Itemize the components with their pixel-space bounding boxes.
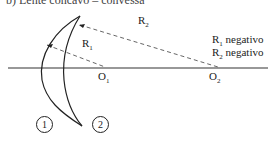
lens-surface-2	[64, 16, 82, 126]
note-r2-negative: R2 negativo	[212, 46, 263, 61]
label-o2: O2	[209, 70, 220, 85]
label-r1: R1	[82, 37, 93, 52]
surface-1-marker: 1	[36, 116, 53, 133]
radius-r1-line	[47, 45, 105, 67]
surface-2-marker: 2	[92, 116, 109, 133]
radius-r2-line	[80, 25, 218, 67]
arrowhead-r2	[79, 24, 85, 28]
label-r2: R2	[138, 14, 149, 29]
label-o1: O1	[98, 70, 109, 85]
lens-surface-1	[41, 16, 82, 126]
